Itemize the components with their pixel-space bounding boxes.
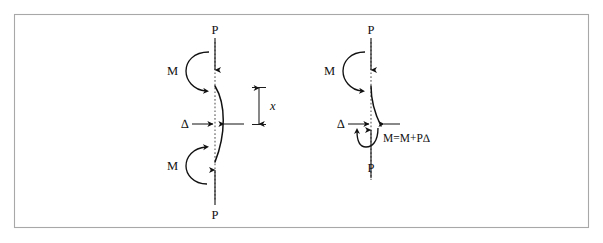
pdelta-diagram-svg: P M M P ∆ x <box>0 0 603 243</box>
left-bottom-moment-arc <box>186 147 207 184</box>
figure-border <box>15 15 589 228</box>
right-top-load-label: P <box>368 23 375 37</box>
right-bottom-moment-arc <box>357 128 378 147</box>
right-top-moment-arc <box>343 52 365 91</box>
left-top-load-label: P <box>212 23 219 37</box>
left-bottom-moment-label: M <box>167 159 178 173</box>
left-x-label: x <box>269 99 276 113</box>
right-delta-label: ∆ <box>337 117 345 131</box>
left-top-moment-label: M <box>167 64 178 78</box>
left-deflected-column <box>215 86 223 162</box>
left-diagram: P M M P ∆ x <box>167 23 276 222</box>
right-moment-formula: M=M+P∆ <box>383 132 430 144</box>
right-deflected-column <box>371 86 381 126</box>
left-bottom-load-label: P <box>212 208 219 222</box>
right-top-moment-label: M <box>324 64 335 78</box>
right-bottom-load-label: P <box>368 161 375 175</box>
figure-container: P M M P ∆ x <box>0 0 603 243</box>
left-delta-label: ∆ <box>181 117 189 131</box>
right-diagram: P M ∆ M=M+P∆ P <box>324 23 430 180</box>
left-top-moment-arc <box>186 52 209 91</box>
